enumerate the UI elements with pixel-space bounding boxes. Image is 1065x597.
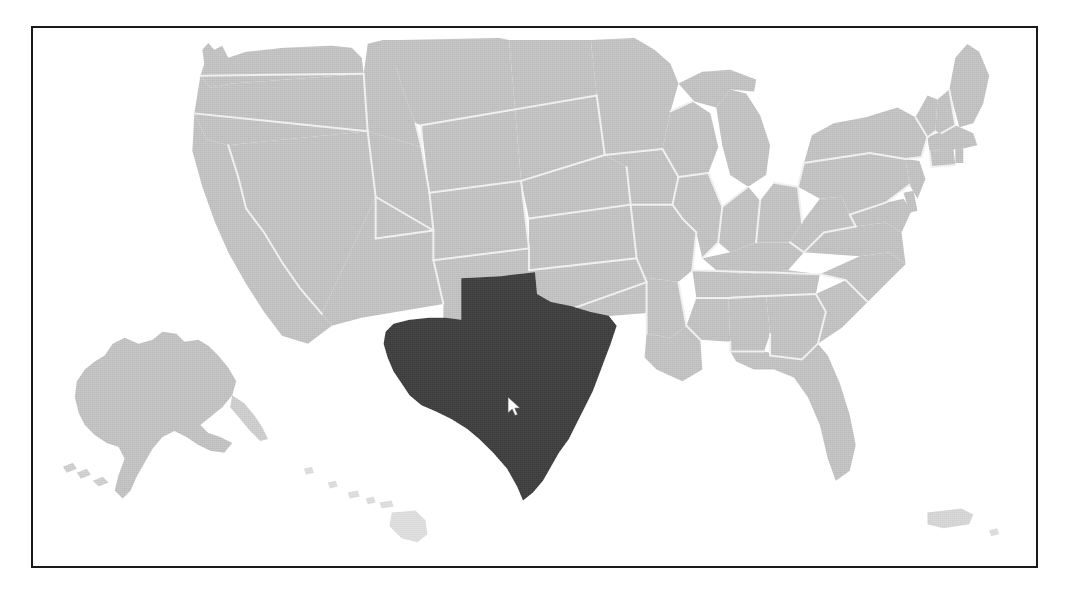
state-alaska[interactable] bbox=[75, 332, 236, 499]
alaska-aleutians bbox=[63, 463, 109, 487]
state-alabama[interactable] bbox=[728, 296, 770, 352]
state-connecticut[interactable] bbox=[929, 149, 955, 167]
inset-hawaii[interactable] bbox=[304, 467, 428, 542]
state-florida[interactable] bbox=[730, 344, 855, 481]
screenshot-root bbox=[0, 0, 1065, 597]
virgin-islands bbox=[989, 528, 999, 536]
state-hawaii[interactable] bbox=[304, 467, 428, 542]
state-rhodeisland[interactable] bbox=[955, 149, 963, 163]
state-utah[interactable] bbox=[368, 131, 434, 238]
state-ohio[interactable] bbox=[756, 183, 802, 243]
inset-puertorico[interactable] bbox=[927, 508, 999, 536]
state-puertorico[interactable] bbox=[927, 508, 973, 528]
state-kentucky[interactable] bbox=[702, 242, 804, 274]
state-maine[interactable] bbox=[949, 44, 989, 127]
map-frame-border bbox=[31, 26, 1038, 568]
us-map-svg[interactable] bbox=[33, 28, 1036, 566]
state-indiana[interactable] bbox=[718, 187, 760, 253]
united-states-map[interactable] bbox=[33, 28, 1036, 566]
contiguous-states-group[interactable] bbox=[192, 38, 989, 501]
state-colorado[interactable] bbox=[429, 181, 529, 260]
state-michigan-lower[interactable] bbox=[716, 90, 770, 187]
inset-alaska[interactable] bbox=[63, 332, 268, 499]
alaska-southeast-panhandle bbox=[230, 395, 268, 441]
